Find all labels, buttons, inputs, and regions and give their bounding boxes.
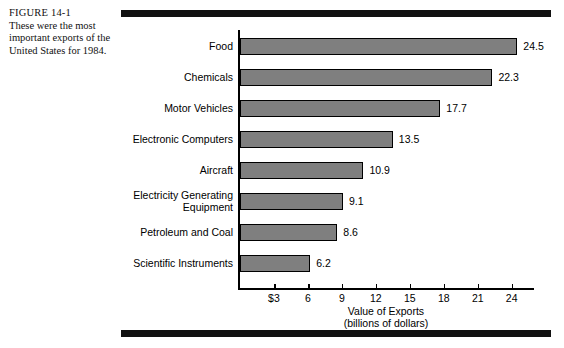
bar-value-label: 6.2 xyxy=(316,255,331,272)
bar-row: Electronic Computers13.5 xyxy=(0,131,564,162)
bar xyxy=(240,100,440,117)
x-axis-tick-mark xyxy=(342,284,344,290)
bar xyxy=(240,224,337,241)
bar-category-label: Petroleum and Coal xyxy=(73,227,233,238)
bar-category-label: Scientific Instruments xyxy=(73,258,233,269)
bar-category-label: Aircraft xyxy=(73,165,233,176)
bar-row: Chemicals22.3 xyxy=(0,69,564,100)
x-axis-tick-label: 24 xyxy=(492,292,532,304)
bar-value-label: 17.7 xyxy=(446,100,466,117)
bar-row: Scientific Instruments6.2 xyxy=(0,255,564,286)
x-axis-tick-mark xyxy=(478,284,480,290)
x-axis-tick-mark xyxy=(512,284,514,290)
bar-value-label: 10.9 xyxy=(369,162,389,179)
bar-category-label: Electronic Computers xyxy=(73,134,233,145)
bar-row: Petroleum and Coal8.6 xyxy=(0,224,564,255)
x-axis-tick-mark xyxy=(308,284,310,290)
bar-row: Aircraft10.9 xyxy=(0,162,564,193)
x-axis-title: Value of Exports (billions of dollars) xyxy=(238,306,534,330)
bar-category-label: Electricity Generating Equipment xyxy=(73,190,233,213)
bar-value-label: 8.6 xyxy=(343,224,358,241)
bar-category-label: Food xyxy=(73,41,233,52)
bar-row: Motor Vehicles17.7 xyxy=(0,100,564,131)
x-axis-tick-mark xyxy=(274,284,276,290)
bar-value-label: 22.3 xyxy=(498,69,518,86)
bar xyxy=(240,131,393,148)
bar-value-label: 13.5 xyxy=(399,131,419,148)
bar xyxy=(240,193,343,210)
bar xyxy=(240,255,310,272)
bar-value-label: 9.1 xyxy=(349,193,364,210)
bar-value-label: 24.5 xyxy=(523,38,543,55)
bar-row: Electricity Generating Equipment9.1 xyxy=(0,193,564,224)
x-axis-tick-mark xyxy=(410,284,412,290)
x-axis-tick-mark xyxy=(376,284,378,290)
bar-chart: Food24.5Chemicals22.3Motor Vehicles17.7E… xyxy=(0,0,564,348)
x-axis-title-units: (billions of dollars) xyxy=(238,318,534,330)
bar xyxy=(240,69,492,86)
bar xyxy=(240,162,363,179)
bar-category-label: Chemicals xyxy=(73,72,233,83)
bar-category-label: Motor Vehicles xyxy=(73,103,233,114)
bar-row: Food24.5 xyxy=(0,38,564,69)
bar xyxy=(240,38,517,55)
x-axis-tick-mark xyxy=(444,284,446,290)
x-axis-line xyxy=(238,288,534,290)
